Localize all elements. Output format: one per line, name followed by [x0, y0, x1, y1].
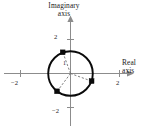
tick-label-real-positive-2: 2 [116, 79, 119, 86]
imaginary-axis-title: Imaginary axis [40, 2, 88, 18]
root-point-1 [60, 50, 65, 55]
tick-label-imaginary-negative-2: −2 [52, 107, 59, 114]
complex-plane-figure: Imaginary axis Real axis 2 −2 −2 2 1 [0, 0, 144, 129]
radius-dashed-root-2 [71, 74, 92, 82]
real-axis-title: Real axis [122, 59, 144, 75]
root-point-3 [55, 89, 60, 94]
imaginary-axis-title-line2: axis [40, 10, 88, 18]
root-point-2 [89, 79, 94, 84]
real-axis-title-line2: axis [122, 67, 144, 75]
tick-label-imaginary-positive-2: 2 [54, 33, 57, 40]
tick-label-real-negative-2: −2 [11, 79, 18, 86]
tick-label-unit-1: 1 [63, 60, 66, 67]
